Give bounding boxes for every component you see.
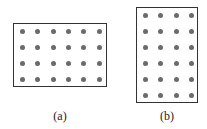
array-dot <box>35 61 40 66</box>
array-dot <box>20 29 25 34</box>
array-dot <box>51 45 56 50</box>
array-dot <box>81 77 86 82</box>
array-dot <box>51 77 56 82</box>
array-dot <box>20 45 25 50</box>
array-dot <box>51 29 56 34</box>
array-dot <box>97 77 102 82</box>
array-dot <box>66 77 71 82</box>
array-dot <box>158 29 163 34</box>
array-dot <box>174 77 179 82</box>
array-dot <box>143 61 148 66</box>
array-dot <box>97 61 102 66</box>
array-dot <box>158 93 163 98</box>
caption-a: (a) <box>53 109 66 124</box>
array-dot <box>189 45 194 50</box>
array-dot <box>20 61 25 66</box>
array-dot <box>35 29 40 34</box>
array-dot <box>174 13 179 18</box>
array-dot <box>158 77 163 82</box>
array-dot <box>81 29 86 34</box>
array-dot <box>97 29 102 34</box>
array-dot <box>51 61 56 66</box>
array-dot <box>97 45 102 50</box>
array-dot <box>143 77 148 82</box>
array-dot <box>66 61 71 66</box>
array-dot <box>143 93 148 98</box>
array-dot <box>66 29 71 34</box>
array-dot <box>81 61 86 66</box>
array-dot <box>81 45 86 50</box>
array-dot <box>66 45 71 50</box>
array-dot <box>35 77 40 82</box>
array-dot <box>158 61 163 66</box>
array-dot <box>174 45 179 50</box>
array-dot <box>174 61 179 66</box>
caption-b: (b) <box>160 109 174 124</box>
array-dot <box>189 93 194 98</box>
array-box-a <box>13 23 107 87</box>
array-dot <box>35 45 40 50</box>
array-box-b <box>136 7 198 103</box>
array-dot <box>174 29 179 34</box>
array-dot <box>189 77 194 82</box>
array-dot <box>143 13 148 18</box>
array-dot <box>158 45 163 50</box>
array-dot <box>158 13 163 18</box>
array-dot <box>143 45 148 50</box>
array-dot <box>20 77 25 82</box>
array-dot <box>143 29 148 34</box>
array-dot <box>189 61 194 66</box>
array-dot <box>189 13 194 18</box>
array-dot <box>189 29 194 34</box>
array-dot <box>174 93 179 98</box>
